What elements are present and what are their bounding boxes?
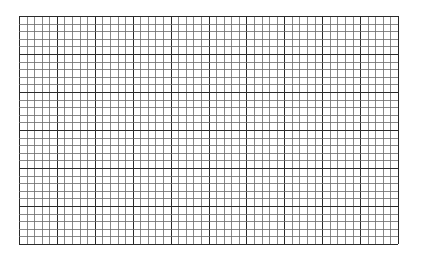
grid-lines	[19, 16, 399, 245]
graph-paper-grid	[19, 16, 399, 245]
